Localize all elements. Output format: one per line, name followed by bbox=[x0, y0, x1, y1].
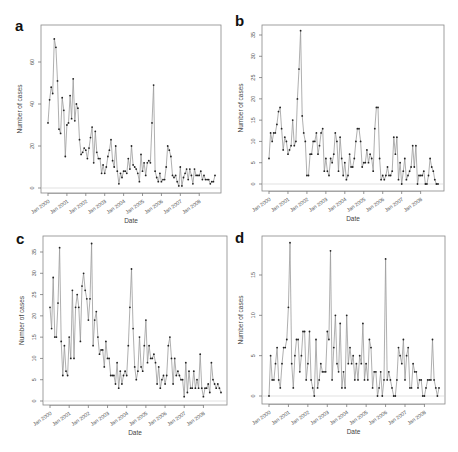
data-point bbox=[366, 149, 368, 151]
data-point bbox=[104, 172, 106, 174]
data-point bbox=[335, 314, 337, 316]
y-tick-label: 15 bbox=[250, 117, 256, 123]
data-point bbox=[401, 183, 403, 185]
x-tick-label: Jan 2000 bbox=[251, 409, 272, 426]
data-point bbox=[368, 162, 370, 164]
data-point bbox=[287, 153, 289, 155]
data-point bbox=[304, 141, 306, 143]
data-point bbox=[82, 151, 84, 153]
data-point bbox=[95, 311, 97, 313]
x-tick-label: Jan 2005 bbox=[348, 409, 369, 426]
data-point bbox=[145, 319, 147, 321]
data-point bbox=[352, 166, 354, 168]
data-point bbox=[425, 387, 427, 389]
data-point bbox=[358, 128, 360, 130]
data-point bbox=[338, 170, 340, 172]
data-point bbox=[49, 306, 51, 308]
data-point bbox=[309, 331, 311, 333]
data-point bbox=[428, 175, 430, 177]
data-point bbox=[129, 306, 131, 308]
data-point bbox=[385, 175, 387, 177]
data-point bbox=[118, 387, 120, 389]
data-point bbox=[297, 339, 299, 341]
x-axis-label: Date bbox=[346, 215, 360, 222]
data-point bbox=[72, 289, 74, 291]
data-point bbox=[301, 355, 303, 357]
data-point bbox=[191, 175, 193, 177]
data-point bbox=[47, 122, 49, 124]
data-point bbox=[186, 168, 188, 170]
data-point bbox=[170, 156, 172, 158]
data-point bbox=[305, 379, 307, 381]
data-point bbox=[146, 162, 148, 164]
data-point bbox=[420, 175, 422, 177]
data-point bbox=[409, 170, 411, 172]
data-point bbox=[323, 170, 325, 172]
data-point bbox=[56, 336, 58, 338]
data-point bbox=[79, 139, 81, 141]
data-point bbox=[331, 162, 333, 164]
data-point bbox=[153, 84, 155, 86]
data-point bbox=[343, 371, 345, 373]
data-point bbox=[338, 371, 340, 373]
data-point bbox=[183, 177, 185, 179]
data-point bbox=[132, 164, 134, 166]
data-point bbox=[354, 379, 356, 381]
x-tick-label: Jan 2003 bbox=[86, 198, 107, 215]
data-point bbox=[171, 358, 173, 360]
data-point bbox=[88, 319, 90, 321]
x-tick-label: Jan 2005 bbox=[124, 198, 145, 215]
data-point bbox=[268, 158, 270, 160]
data-point bbox=[89, 298, 91, 300]
panel-a: 0204060Number of casesJan 2000Jan 2001Ja… bbox=[0, 0, 229, 226]
data-point bbox=[143, 162, 145, 164]
data-point bbox=[69, 95, 71, 97]
data-point bbox=[151, 122, 153, 124]
x-tick-label: Jan 2002 bbox=[67, 198, 88, 215]
data-point bbox=[57, 80, 59, 82]
data-point bbox=[187, 392, 189, 394]
data-point bbox=[150, 162, 152, 164]
data-point bbox=[92, 345, 94, 347]
data-point bbox=[295, 141, 297, 143]
data-point bbox=[127, 345, 129, 347]
data-point bbox=[156, 177, 158, 179]
data-point bbox=[438, 387, 440, 389]
data-point bbox=[76, 103, 78, 105]
data-point bbox=[137, 370, 139, 372]
data-point bbox=[370, 347, 372, 349]
x-tick-label: Jan 2003 bbox=[89, 410, 110, 427]
data-point bbox=[60, 133, 62, 135]
data-point bbox=[278, 379, 280, 381]
data-point bbox=[83, 147, 85, 149]
data-point bbox=[166, 375, 168, 377]
data-point bbox=[94, 319, 96, 321]
data-point bbox=[90, 137, 92, 139]
data-point bbox=[415, 145, 417, 147]
data-point bbox=[68, 122, 70, 124]
data-point bbox=[66, 124, 68, 126]
data-point bbox=[150, 358, 152, 360]
y-tick-label: 10 bbox=[31, 355, 37, 361]
data-point bbox=[134, 166, 136, 168]
data-point bbox=[371, 158, 373, 160]
data-point bbox=[121, 383, 123, 385]
data-point bbox=[413, 166, 415, 168]
x-tick-label: Jan 2001 bbox=[270, 196, 291, 213]
data-point bbox=[396, 379, 398, 381]
data-point bbox=[139, 181, 141, 183]
data-point bbox=[180, 379, 182, 381]
data-point bbox=[322, 371, 324, 373]
data-point bbox=[51, 328, 53, 330]
data-point bbox=[205, 179, 207, 181]
data-point bbox=[70, 358, 72, 360]
data-point bbox=[88, 147, 90, 149]
data-point bbox=[331, 379, 333, 381]
data-point bbox=[300, 30, 302, 32]
data-point bbox=[344, 162, 346, 164]
data-point bbox=[156, 383, 158, 385]
data-point bbox=[385, 258, 387, 260]
data-point bbox=[320, 132, 322, 134]
data-point bbox=[102, 164, 104, 166]
data-point bbox=[312, 387, 314, 389]
